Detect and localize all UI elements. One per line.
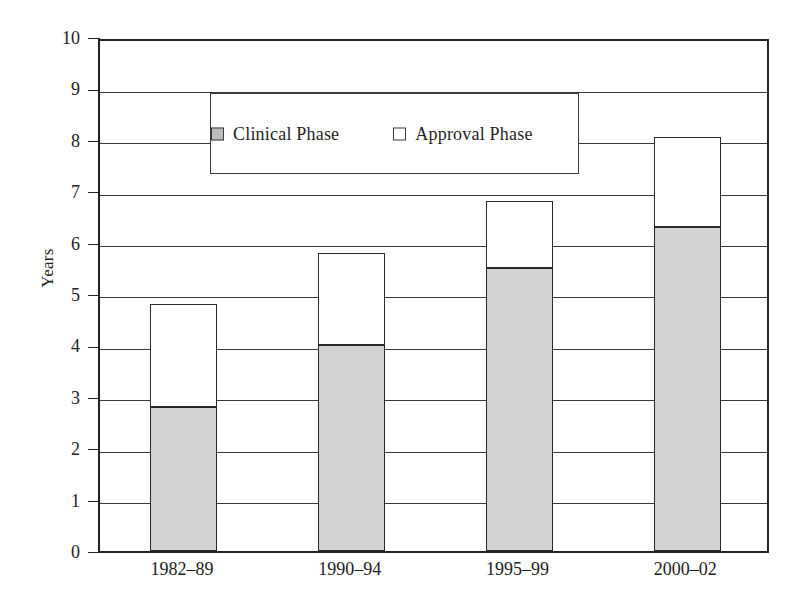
bar-segment-clinical-phase[interactable] (318, 345, 385, 551)
bar-segment-clinical-phase[interactable] (654, 227, 721, 551)
bar-segment-approval-phase[interactable] (654, 137, 721, 227)
legend-label-approval-phase: Approval Phase (415, 123, 532, 144)
legend-item-clinical-phase: Clinical Phase (211, 123, 339, 144)
y-axis-tick-label: 1 (36, 492, 80, 510)
bar-group[interactable] (150, 37, 217, 551)
bar-segment-approval-phase[interactable] (150, 304, 217, 407)
y-axis-tick-label: 3 (36, 389, 80, 407)
y-axis-tick-label: 10 (36, 29, 80, 47)
x-axis-tick-label: 1982–89 (102, 560, 262, 578)
x-axis-tick-label: 1990–94 (270, 560, 430, 578)
y-axis-tick-label: 4 (36, 337, 80, 355)
y-axis-tick-label: 2 (36, 440, 80, 458)
legend-swatch-approval-phase-icon (393, 127, 406, 140)
y-axis-tick-label: 5 (36, 286, 80, 304)
bar-segment-clinical-phase[interactable] (150, 407, 217, 551)
legend-swatch-clinical-phase-icon (211, 127, 224, 140)
plot-area: Clinical Phase Approval Phase (98, 39, 769, 553)
stacked-bar-chart-figure: Years 012345678910 Clinical Phase Approv… (0, 0, 807, 608)
legend-label-clinical-phase: Clinical Phase (233, 123, 339, 144)
bar-segment-approval-phase[interactable] (318, 253, 385, 346)
bar-segment-clinical-phase[interactable] (486, 268, 553, 551)
y-axis-tick-label: 8 (36, 132, 80, 150)
y-axis-tick-label: 9 (36, 80, 80, 98)
x-axis-tick-label: 1995–99 (437, 560, 597, 578)
bar-group[interactable] (654, 37, 721, 551)
legend-row: Clinical Phase Approval Phase (211, 123, 533, 144)
y-axis-tick-label: 6 (36, 235, 80, 253)
chart-legend: Clinical Phase Approval Phase (210, 93, 579, 174)
bar-segment-approval-phase[interactable] (486, 201, 553, 268)
x-axis-tick-label: 2000–02 (605, 560, 765, 578)
legend-item-approval-phase: Approval Phase (393, 123, 532, 144)
y-axis-tick-label: 0 (36, 543, 80, 561)
y-axis-tick-label: 7 (36, 183, 80, 201)
